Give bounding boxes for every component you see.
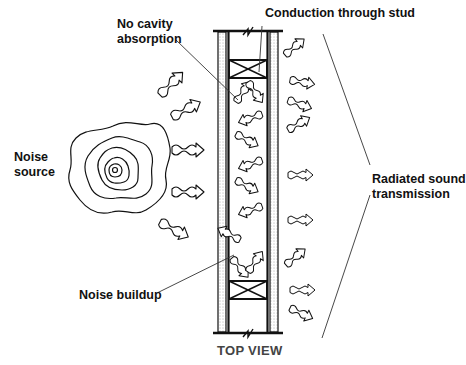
- no-cavity-absorption-label: No cavity absorption: [117, 17, 182, 47]
- noise-source-line2: source: [14, 165, 55, 180]
- top-stud-icon: [229, 60, 267, 78]
- bottom-stud-icon: [229, 281, 267, 299]
- no-cavity-line1: No cavity: [117, 17, 182, 32]
- radiated-line2: transmission: [372, 187, 466, 202]
- leader-lines: [157, 26, 370, 338]
- incident-sound-arrows: [155, 67, 204, 243]
- conduction-through-stud-label: Conduction through stud: [265, 6, 415, 21]
- noise-source-icon: [69, 123, 171, 214]
- noise-source-label: Noise source: [14, 150, 55, 180]
- noise-buildup-label: Noise buildup: [79, 288, 162, 303]
- radiated-line1: Radiated sound: [372, 172, 466, 187]
- noise-source-line1: Noise: [14, 150, 55, 165]
- radiated-sound-arrows: [281, 34, 316, 324]
- radiated-sound-label: Radiated sound transmission: [372, 172, 466, 202]
- no-cavity-line2: absorption: [117, 32, 182, 47]
- top-view-caption: TOP VIEW: [217, 343, 283, 358]
